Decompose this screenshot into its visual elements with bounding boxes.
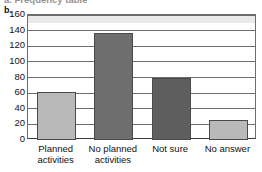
y-tick-label: 20 — [0, 118, 25, 128]
y-tick-label: 100 — [0, 56, 25, 66]
gridline — [28, 61, 255, 62]
y-tick-label: 40 — [0, 103, 25, 113]
y-tick-label: 140 — [0, 25, 25, 35]
x-tick-label: Planned activities — [23, 143, 88, 165]
y-tick-label: 120 — [0, 40, 25, 50]
y-tick-label: 60 — [0, 87, 25, 97]
bar — [209, 120, 248, 140]
bar — [152, 78, 191, 140]
y-tick-label: 0 — [0, 134, 25, 144]
gridline — [28, 77, 255, 78]
x-tick-label: Not sure — [138, 143, 203, 154]
bar — [37, 92, 76, 140]
y-tick-label: 160 — [0, 9, 25, 19]
gridline — [28, 30, 255, 31]
top-shaded-band — [28, 15, 255, 23]
bar — [94, 33, 133, 140]
x-tick-label: No answer — [195, 143, 260, 154]
plot-area — [27, 14, 256, 139]
bar-chart: 020406080100120140160 Planned activities… — [0, 0, 262, 172]
y-tick-label: 80 — [0, 72, 25, 82]
x-tick-label: No planned activities — [80, 143, 145, 165]
gridline — [28, 15, 255, 16]
gridline — [28, 46, 255, 47]
